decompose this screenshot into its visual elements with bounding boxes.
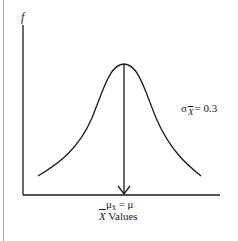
normal-curve	[38, 64, 201, 176]
x-bar-symbol: X	[99, 210, 106, 222]
std-dev-label: σX= 0.3	[181, 103, 217, 114]
sigma-symbol: σ	[181, 102, 187, 114]
sampling-distribution-diagram: f σX= 0.3 μx̄ = μ X Values	[0, 0, 238, 241]
sigma-subscript: X	[188, 107, 194, 117]
mean-label: μx̄ = μ	[106, 199, 134, 210]
x-axis-text: Values	[108, 210, 137, 222]
y-axis-label: f	[21, 11, 24, 23]
mu-equals: = μ	[119, 198, 134, 210]
x-axis-label: X Values	[99, 211, 138, 222]
sigma-value: = 0.3	[194, 102, 217, 114]
